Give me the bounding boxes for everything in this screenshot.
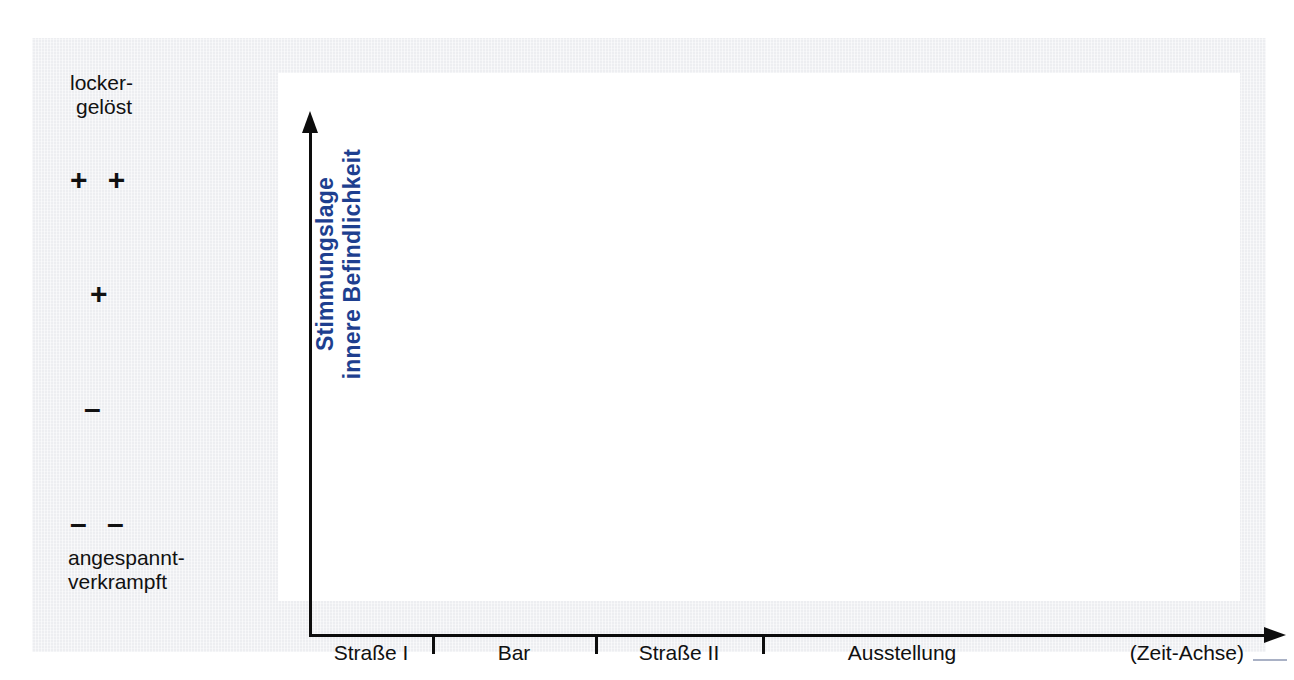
x-axis-category-label-bar: Bar [424,642,604,663]
x-axis-unit-label: (Zeit-Achse) [1130,642,1244,663]
x-axis-line [309,634,1269,637]
y-axis-title: Stimmungslage innere Befindlichkeit [312,104,372,424]
y-scale-marker-minus: – [84,394,107,424]
y-axis-bottom-pole-line1: angespannt- [68,546,185,570]
y-axis-title-line2: innere Befindlichkeit [339,104,366,424]
y-axis-top-pole-line2: gelöst [70,95,133,119]
x-axis-category-label-ausstellung: Ausstellung [780,642,1024,663]
plot-area [278,73,1240,601]
y-axis-title-line1: Stimmungslage [312,104,339,424]
y-scale-marker-plus-plus: + + [70,165,131,195]
scan-edge-artifact [1253,659,1287,661]
y-axis-bottom-pole-label: angespannt- verkrampft [68,546,185,593]
y-axis-bottom-pole-line2: verkrampft [68,570,185,594]
y-axis-top-pole-label: locker- gelöst [70,71,133,118]
x-axis-arrow-icon [1264,627,1286,643]
x-axis-category-label-strasse-2: Straße II [589,642,769,663]
y-axis-top-pole-line1: locker- [70,71,133,95]
figure-panel: locker- gelöst + + + – – – angespannt- v… [32,38,1266,652]
y-scale-marker-plus: + [90,279,114,309]
y-scale-marker-minus-minus: – – [70,509,130,539]
